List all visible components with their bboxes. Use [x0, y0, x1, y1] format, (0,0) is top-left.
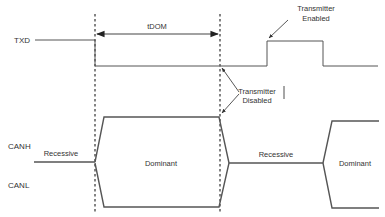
recessive-label-2: Recessive	[259, 150, 294, 159]
tdom-label: tDOM	[147, 22, 167, 31]
txd-label: TXD	[14, 36, 30, 45]
txd-waveform	[35, 40, 378, 66]
transmitter-disabled-arrow-can	[222, 94, 239, 113]
transmitter-disabled-arrow-txd	[222, 68, 239, 92]
transmitter-enabled-line1: Transmitter	[297, 4, 335, 13]
recessive-label-1: Recessive	[44, 149, 79, 158]
canl-dominant-2	[323, 163, 379, 208]
transmitter-enabled-arrow	[269, 20, 288, 38]
canh-label: CANH	[8, 142, 31, 151]
dominant-label-2: Dominant	[339, 159, 372, 168]
timing-diagram: TXD CANH CANL tDOM Transmitter Enabled T…	[0, 0, 385, 217]
transmitter-enabled-line2: Enabled	[302, 14, 330, 23]
canl-dominant-1	[95, 163, 229, 207]
canl-label: CANL	[8, 181, 30, 190]
canh-dominant-1	[95, 117, 229, 163]
canh-dominant-2	[323, 121, 379, 163]
transmitter-disabled-line2: Disabled	[242, 96, 271, 105]
transmitter-disabled-line1: Transmitter	[238, 87, 276, 96]
dominant-label-1: Dominant	[145, 159, 178, 168]
